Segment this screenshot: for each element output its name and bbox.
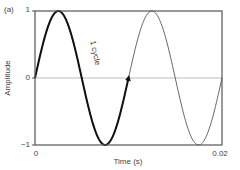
x-tick-label-left: 0 (34, 150, 38, 158)
y-axis-label: Amplitude (4, 60, 12, 96)
x-axis-label: Time (s) (113, 158, 142, 166)
y-tick-label-top: 1 (20, 6, 30, 14)
y-tick-label-bot: −1 (20, 141, 30, 149)
sine-wave-chart (0, 0, 240, 170)
panel-label: (a) (4, 6, 14, 14)
y-tick-label-mid: 0 (20, 74, 30, 82)
x-tick-label-right: 0.02 (212, 150, 228, 158)
